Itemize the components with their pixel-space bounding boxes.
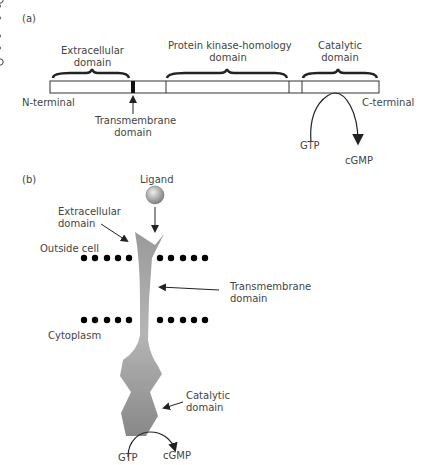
outside-cell-label: Outside cell: [40, 243, 99, 255]
transmembrane-arrow-b: [160, 287, 219, 290]
label-line: Catalytic: [310, 40, 370, 52]
panel-b-label: (b): [22, 174, 36, 186]
gtp-cgmp-arc-a: [311, 93, 358, 142]
extracellular-label-b: Extracellular domain: [58, 206, 121, 230]
n-terminal-label: N-terminal: [22, 97, 75, 109]
cytoplasm-label: Cytoplasm: [48, 330, 101, 342]
gtp-label-b: GTP: [118, 452, 138, 464]
label-line: domain: [58, 218, 121, 230]
panel-a-label: (a): [22, 13, 36, 25]
label-line: Extracellular: [60, 45, 125, 57]
label-line: Catalytic: [186, 390, 230, 402]
lipid-left: [81, 255, 132, 323]
extracellular-domain-label: Extracellular domain: [60, 45, 125, 69]
label-line: domain: [230, 293, 311, 305]
lipid-bilayer: [0, 0, 3, 65]
label-line: domain: [95, 127, 171, 139]
cgmp-label-b: cGMP: [163, 450, 191, 462]
label-line: domain: [60, 57, 125, 69]
label-line: domain: [310, 52, 370, 64]
domain-braces: [53, 69, 377, 78]
label-line: Transmembrane: [230, 281, 311, 293]
label-line: Transmembrane: [95, 115, 171, 127]
label-line: domain: [168, 52, 288, 64]
c-terminal-label: C-terminal: [362, 97, 414, 109]
label-line: Extracellular: [58, 206, 121, 218]
catalytic-label-b: Catalytic domain: [186, 390, 230, 414]
transmembrane-domain-label: Transmembrane domain: [95, 115, 171, 139]
label-line: domain: [186, 402, 230, 414]
ligand-ball: [146, 186, 164, 204]
protein-bar: [50, 81, 379, 93]
catalytic-domain-label: Catalytic domain: [310, 40, 370, 64]
receptor-shape: [120, 232, 164, 436]
kinase-domain-label: Protein kinase-homology domain: [168, 40, 288, 64]
catalytic-arrow: [164, 402, 183, 408]
ligand-label: Ligand: [140, 174, 174, 186]
cgmp-label-a: cGMP: [345, 155, 373, 167]
label-line: Protein kinase-homology: [168, 40, 288, 52]
transmembrane-label-b: Transmembrane domain: [230, 281, 311, 305]
gtp-label-a: GTP: [300, 140, 320, 152]
